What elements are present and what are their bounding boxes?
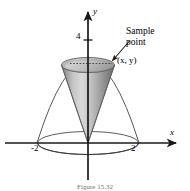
x-axis-label: x [170,128,174,137]
sample-point-label-line1: Sample [126,27,155,37]
y-axis-label: y [93,7,97,16]
figure-container: y x 4 -2 2 Sample point (x, y) Figure 15… [0,0,190,191]
figure-graphic [0,0,190,191]
x-tick-label-minus2: -2 [31,144,39,153]
y-tick-label-4: 4 [76,32,81,41]
sample-point-coordinates: (x, y) [117,56,137,65]
sample-point-label-line2: point [126,38,146,48]
x-tick-label-2: 2 [131,144,136,153]
figure-caption: Figure 15.32 [0,184,190,191]
